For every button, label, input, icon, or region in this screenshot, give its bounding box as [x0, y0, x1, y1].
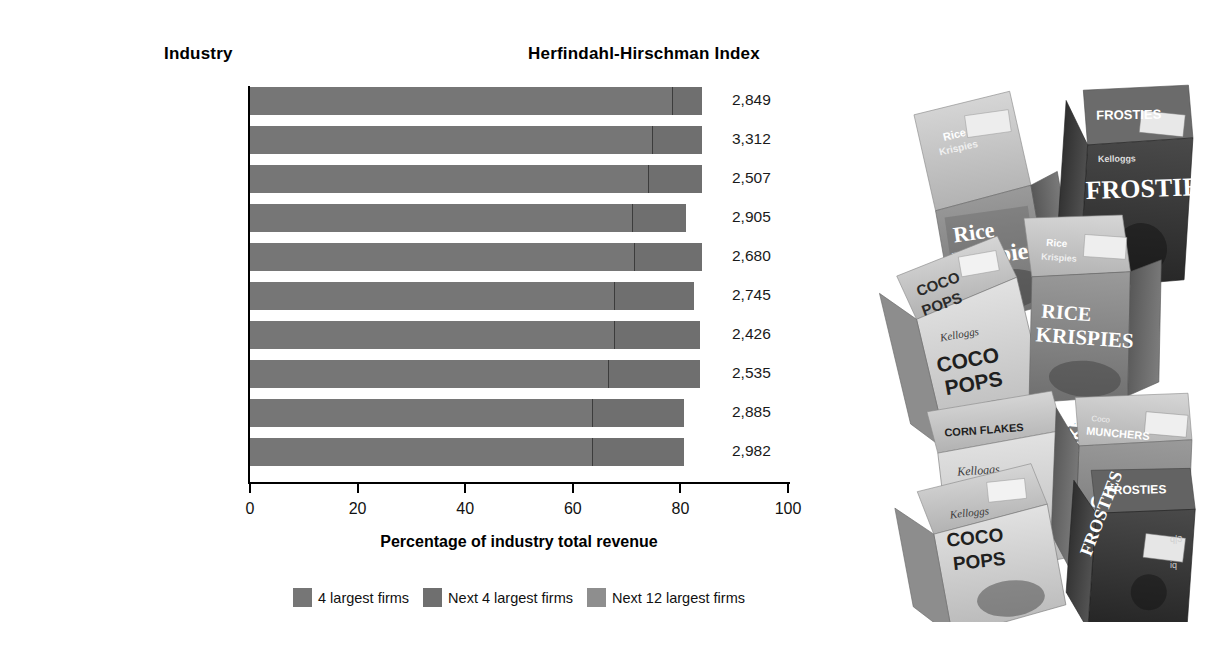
legend-item: Next 4 largest firms	[423, 588, 573, 607]
chart-row: Breakfast cereals2,426	[0, 320, 840, 359]
stacked-bar	[250, 399, 684, 427]
chart-row: Cigarettes*3,312	[0, 125, 840, 164]
svg-text:FROSTIES: FROSTIES	[1085, 172, 1202, 205]
legend-label: Next 12 largest firms	[612, 590, 745, 606]
hhi-value: 2,535	[732, 362, 771, 384]
hhi-value: 2,982	[732, 440, 771, 462]
bar-segment-next-4-largest	[614, 282, 694, 310]
stacked-bar	[250, 243, 702, 271]
legend-item: 4 largest firms	[293, 588, 409, 607]
hhi-value: 2,885	[732, 401, 771, 423]
x-axis-tick	[249, 484, 251, 493]
stacked-bar	[250, 438, 684, 466]
hhi-value: 2,680	[732, 245, 771, 267]
bar-segment-4-largest	[250, 243, 634, 271]
bar-segment-next-4-largest	[672, 87, 702, 115]
svg-text:Kelloggs: Kelloggs	[1098, 153, 1136, 164]
legend-swatch	[587, 588, 606, 607]
bar-segment-4-largest	[250, 165, 648, 193]
hhi-value: 2,745	[732, 284, 771, 306]
bar-segment-4-largest	[250, 399, 592, 427]
chart-row: Specialty cans2,885	[0, 398, 840, 437]
stacked-bar	[250, 321, 700, 349]
bar-segment-4-largest	[250, 438, 592, 466]
stacked-bar	[250, 87, 702, 115]
chart-row: Light trucks2,680	[0, 242, 840, 281]
chart-legend: 4 largest firmsNext 4 largest firmsNext …	[250, 588, 788, 607]
legend-label: 4 largest firms	[318, 590, 409, 606]
stacked-bar	[250, 165, 702, 193]
hhi-value: 2,507	[732, 167, 771, 189]
legend-item: Next 12 largest firms	[587, 588, 745, 607]
x-axis-tick-label: 80	[671, 500, 689, 518]
hhi-value: 3,312	[732, 128, 771, 150]
bar-segment-next-4-largest	[652, 126, 702, 154]
svg-text:FROSTIES: FROSTIES	[1096, 107, 1162, 123]
chart-row: Airplanes*2,849	[0, 86, 840, 125]
chart-row: Petrochemicals2,535	[0, 359, 840, 398]
x-axis-tick-label: 20	[349, 500, 367, 518]
hhi-value: 2,905	[732, 206, 771, 228]
x-axis-tick	[679, 484, 681, 493]
chart-row: Recording devices2,905	[0, 203, 840, 242]
svg-text:RICE: RICE	[1041, 300, 1092, 325]
stacked-bar	[250, 360, 700, 388]
legend-swatch	[293, 588, 312, 607]
stacked-bar	[250, 282, 694, 310]
bar-segment-4-largest	[250, 282, 614, 310]
bar-segment-next-4-largest	[614, 321, 700, 349]
bar-segment-4-largest	[250, 360, 608, 388]
bar-segment-next-4-largest	[592, 399, 684, 427]
stacked-bar	[250, 204, 686, 232]
chart-row: Glass containers2,507	[0, 164, 840, 203]
x-axis-line	[248, 482, 790, 484]
chart-figure: Industry Herfindahl-Hirschman Index Airp…	[0, 0, 1205, 658]
x-axis-title: Percentage of industry total revenue	[250, 533, 788, 551]
stacked-bar	[250, 126, 702, 154]
svg-text:iq: iq	[1170, 560, 1177, 570]
bar-segment-next-4-largest	[634, 243, 702, 271]
chart-row: Computer storage devices2,982	[0, 437, 840, 476]
hhi-value: 2,426	[732, 323, 771, 345]
x-axis-tick	[464, 484, 466, 493]
legend-label: Next 4 largest firms	[448, 590, 573, 606]
x-axis-tick-label: 100	[775, 500, 802, 518]
x-axis-tick	[787, 484, 789, 493]
x-axis-tick	[572, 484, 574, 493]
bar-segment-next-4-largest	[632, 204, 686, 232]
x-axis-tick-label: 60	[564, 500, 582, 518]
bar-rows: Airplanes*2,849Cigarettes*3,312Glass con…	[0, 86, 840, 476]
bar-segment-next-4-largest	[648, 165, 702, 193]
bar-segment-4-largest	[250, 87, 672, 115]
plot-area: Airplanes*2,849Cigarettes*3,312Glass con…	[0, 0, 840, 658]
svg-text:Rice: Rice	[1046, 237, 1068, 249]
cereal-boxes-photo: Rice Krispies Rice Krispies FROSTIES Kel…	[862, 62, 1202, 622]
bar-segment-4-largest	[250, 321, 614, 349]
bar-segment-4-largest	[250, 126, 652, 154]
x-axis-tick-label: 40	[456, 500, 474, 518]
x-axis-tick-label: 0	[246, 500, 255, 518]
bar-segment-next-4-largest	[592, 438, 684, 466]
legend-swatch	[423, 588, 442, 607]
chart-row: Other tobacco products2,745	[0, 281, 840, 320]
svg-text:q|3: q|3	[1170, 534, 1182, 544]
svg-text:Coco: Coco	[1091, 414, 1111, 425]
hhi-value: 2,849	[732, 89, 771, 111]
bar-segment-next-4-largest	[608, 360, 700, 388]
bar-segment-4-largest	[250, 204, 632, 232]
x-axis-tick	[357, 484, 359, 493]
